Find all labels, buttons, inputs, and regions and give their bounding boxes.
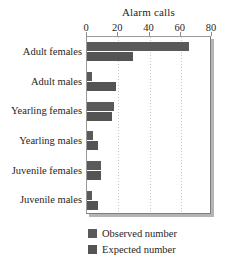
chart-legend: Observed numberExpected number [88,226,177,256]
bar-adult-females-expected [87,52,133,61]
legend-swatch-icon [88,229,97,238]
bar-adult-females-observed [87,42,189,51]
bar-yearling-males-expected [87,141,98,150]
bar-yearling-females-observed [87,102,114,111]
category-label-juvenile-females: Juvenile females [12,164,82,175]
category-label-yearling-females: Yearling females [11,105,82,116]
chart-axis-title: Alarm calls [86,6,211,18]
category-axis-labels: Adult femalesAdult malesYearling females… [0,36,82,214]
bar-adult-males-observed [87,72,92,81]
legend-label: Expected number [102,244,176,255]
legend-label: Observed number [102,228,177,239]
bar-juvenile-females-observed [87,161,101,170]
legend-swatch-icon [88,245,97,254]
frame-shadow-right [211,39,214,217]
bar-yearling-males-observed [87,131,93,140]
alarm-calls-bar-chart: Alarm calls 020406080 Adult femalesAdult… [0,0,230,268]
bar-juvenile-males-expected [87,201,98,210]
x-tick-mark-80 [211,32,212,36]
x-tick-mark-60 [180,32,181,36]
bar-yearling-females-expected [87,112,112,121]
bars-layer [87,37,210,213]
x-tick-mark-40 [149,32,150,36]
category-label-yearling-males: Yearling males [19,134,82,145]
category-label-juvenile-males: Juvenile males [20,194,82,205]
category-label-adult-males: Adult males [31,75,82,86]
plot-area [86,36,211,214]
x-axis-tick-labels: 020406080 [0,22,230,36]
bar-juvenile-females-expected [87,171,101,180]
legend-item-observed: Observed number [88,226,177,240]
category-label-adult-females: Adult females [23,45,82,56]
frame-shadow-bottom [89,214,214,217]
x-tick-mark-20 [117,32,118,36]
x-tick-mark-0 [86,32,87,36]
bar-adult-males-expected [87,82,116,91]
legend-item-expected: Expected number [88,242,177,256]
bar-juvenile-males-observed [87,191,92,200]
